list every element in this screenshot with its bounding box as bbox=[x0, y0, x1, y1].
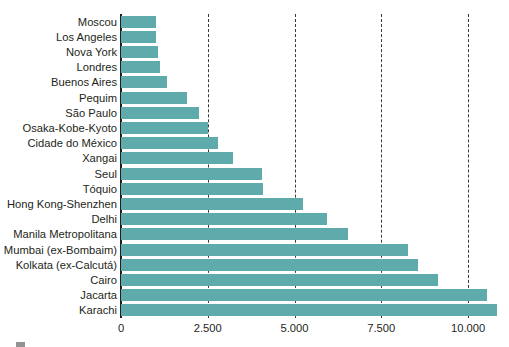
bar-row bbox=[121, 92, 509, 104]
x-tick-label: 10.000 bbox=[451, 322, 485, 334]
bar-row bbox=[121, 61, 509, 73]
bar-row bbox=[121, 183, 509, 195]
bar-row bbox=[121, 76, 509, 88]
bar-row bbox=[121, 168, 509, 180]
bar bbox=[121, 289, 487, 301]
horizontal-bar-chart: MoscouLos AngelesNova YorkLondresBuenos … bbox=[0, 0, 509, 347]
category-label: Manila Metropolitana bbox=[0, 228, 117, 240]
category-label: Pequim bbox=[0, 92, 117, 104]
category-label: Karachi bbox=[0, 304, 117, 316]
bar bbox=[121, 16, 156, 28]
bar-row bbox=[121, 16, 509, 28]
category-label: Londres bbox=[0, 61, 117, 73]
bar bbox=[121, 259, 418, 271]
bar-row bbox=[121, 289, 509, 301]
bar-row bbox=[121, 107, 509, 119]
bar bbox=[121, 152, 233, 164]
category-label: Nova York bbox=[0, 46, 117, 58]
category-label: Hong Kong-Shenzhen bbox=[0, 198, 117, 210]
bar-row bbox=[121, 274, 509, 286]
x-axis-tick-layer: 02.5005.0007.50010.000 bbox=[0, 322, 509, 340]
bar bbox=[121, 46, 158, 58]
bar bbox=[121, 274, 438, 286]
bar-row bbox=[121, 244, 509, 256]
x-tick-label: 7.500 bbox=[367, 322, 395, 334]
category-label: Kolkata (ex-Calcutá) bbox=[0, 259, 117, 271]
bar bbox=[121, 198, 303, 210]
bar-row bbox=[121, 213, 509, 225]
category-label-layer: MoscouLos AngelesNova YorkLondresBuenos … bbox=[0, 14, 117, 318]
bar-row bbox=[121, 46, 509, 58]
bar bbox=[121, 61, 160, 73]
bar bbox=[121, 304, 497, 316]
bar bbox=[121, 122, 208, 134]
bar-row bbox=[121, 228, 509, 240]
category-label: Los Angeles bbox=[0, 31, 117, 43]
category-label: Tóquio bbox=[0, 183, 117, 195]
category-label: São Paulo bbox=[0, 107, 117, 119]
gridline-2500 bbox=[208, 14, 209, 318]
bar bbox=[121, 76, 167, 88]
category-label: Jacarta bbox=[0, 289, 117, 301]
bar bbox=[121, 213, 327, 225]
category-label: Osaka-Kobe-Kyoto bbox=[0, 122, 117, 134]
bar-row bbox=[121, 31, 509, 43]
x-tick-label: 0 bbox=[118, 322, 124, 334]
bar bbox=[121, 228, 348, 240]
gridline-10000 bbox=[468, 14, 469, 318]
x-tick-label: 2.500 bbox=[194, 322, 222, 334]
category-label: Buenos Aires bbox=[0, 76, 117, 88]
bar bbox=[121, 31, 156, 43]
bar bbox=[121, 168, 262, 180]
bar bbox=[121, 244, 408, 256]
bar bbox=[121, 183, 263, 195]
bar-row bbox=[121, 137, 509, 149]
x-tick-label: 5.000 bbox=[281, 322, 309, 334]
category-label: Delhi bbox=[0, 213, 117, 225]
bar bbox=[121, 92, 187, 104]
category-label: Cairo bbox=[0, 274, 117, 286]
category-label: Seul bbox=[0, 168, 117, 180]
page-artifact-mark bbox=[16, 342, 38, 347]
bar-row bbox=[121, 259, 509, 271]
category-label: Mumbai (ex-Bombaim) bbox=[0, 244, 117, 256]
bar-row bbox=[121, 122, 509, 134]
category-label: Cidade do México bbox=[0, 137, 117, 149]
plot-area bbox=[121, 14, 509, 318]
gridline-5000 bbox=[295, 14, 296, 318]
bar-row bbox=[121, 152, 509, 164]
category-label: Xangai bbox=[0, 152, 117, 164]
bar-row bbox=[121, 304, 509, 316]
bar-row bbox=[121, 198, 509, 210]
category-label: Moscou bbox=[0, 16, 117, 28]
gridline-7500 bbox=[381, 14, 382, 318]
bar bbox=[121, 107, 199, 119]
bar bbox=[121, 137, 218, 149]
